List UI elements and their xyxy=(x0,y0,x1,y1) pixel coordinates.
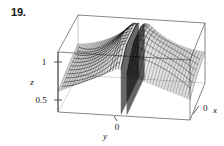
surface-plot-3d: 1 0.5 z 0 y 0 x xyxy=(0,0,224,146)
y-origin-label: 0 xyxy=(115,122,120,132)
y-axis: 0 y xyxy=(102,116,120,141)
figure-page: 19. 1 xyxy=(0,0,224,146)
z-axis-label: z xyxy=(29,77,34,87)
z-tick-label-1: 1 xyxy=(42,57,47,67)
z-tick-label-0point5: 0.5 xyxy=(35,95,47,105)
y-tick-0 xyxy=(114,116,117,121)
x-origin-label: 0 xyxy=(203,103,208,113)
x-axis-label: x xyxy=(212,105,217,115)
y-axis-label: y xyxy=(102,131,107,141)
surface-wireframe xyxy=(58,23,205,115)
x-axis: 0 x xyxy=(193,103,217,115)
z-axis: 1 0.5 z xyxy=(29,52,62,112)
surface-mesh-line xyxy=(144,26,200,59)
